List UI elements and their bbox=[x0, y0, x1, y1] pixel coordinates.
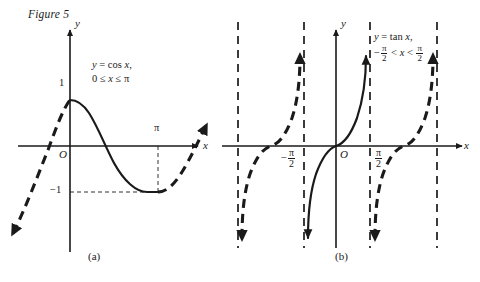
panel-b-tick-plus-denominator: 2 bbox=[375, 158, 382, 169]
panel-a-x-axis-label: x bbox=[203, 139, 208, 151]
panel-b-axes bbox=[222, 30, 462, 248]
panel-a-tick-x-pi: π bbox=[154, 122, 159, 133]
panel-a-domain-lower: 0 ≤ bbox=[92, 73, 108, 84]
panel-b-domain-minus: − bbox=[374, 47, 380, 58]
panel-b-x-axis-label: x bbox=[464, 139, 469, 151]
panel-b-annotation-eq: = tan bbox=[379, 31, 406, 42]
panel-a-origin-label: O bbox=[59, 148, 67, 160]
panel-a-function-annotation: y = cos x, 0 ≤ x ≤ π bbox=[92, 58, 132, 86]
panel-b-domain-lower-fraction: π2 bbox=[381, 44, 388, 63]
panel-a-domain-upper: ≤ π bbox=[113, 73, 129, 84]
panel-a-tick-y-one: 1 bbox=[59, 77, 64, 88]
panel-a-annotation-line-1: y = cos x, bbox=[92, 58, 132, 72]
panel-b-origin-label: O bbox=[340, 148, 348, 160]
panel-b-domain-upper-fraction: π2 bbox=[416, 44, 423, 63]
panel-b-y-axis-label: y bbox=[341, 17, 346, 29]
cosine-dashed-right-branch bbox=[158, 126, 206, 192]
tangent-solid-branch-principal bbox=[308, 56, 366, 238]
panel-a-caption: (a) bbox=[88, 250, 100, 262]
panel-b-caption: (b) bbox=[335, 250, 348, 262]
panel-b-domain-lower-numerator: π bbox=[381, 44, 388, 53]
panel-b-tangent-curves bbox=[242, 56, 433, 238]
panel-b-tick-minus-numerator: π bbox=[288, 148, 295, 158]
panel-b-function-annotation: y = tan x, −π2 < x < π2 bbox=[374, 30, 424, 64]
panel-b-domain-upper-denominator: 2 bbox=[416, 53, 423, 63]
panel-b-annotation-line-2: −π2 < x < π2 bbox=[374, 44, 424, 63]
panel-a-annotation-line-2: 0 ≤ x ≤ π bbox=[92, 72, 132, 86]
figure-container: Figure 5 y x O 1 −1 π y = cos x, 0 ≤ x ≤… bbox=[0, 0, 480, 282]
panel-b-annotation-x: x, bbox=[405, 31, 412, 42]
panel-b-tick-minus-sign: − bbox=[281, 152, 287, 163]
panel-b-tick-minus-fraction: π2 bbox=[288, 148, 295, 169]
panel-a-y-axis-label: y bbox=[75, 17, 80, 29]
panel-b-domain-lower-denominator: 2 bbox=[381, 53, 388, 63]
tangent-dashed-branch-right bbox=[375, 56, 433, 238]
panel-b-domain-lt-1: < bbox=[388, 47, 399, 58]
panel-b-tick-plus-fraction: π2 bbox=[375, 148, 382, 169]
panel-b-tick-plus-numerator: π bbox=[375, 148, 382, 158]
panel-b-domain-upper-numerator: π bbox=[416, 44, 423, 53]
panel-b-tick-pi-over-2: π2 bbox=[374, 148, 383, 169]
panel-a-annotation-eq: = cos bbox=[97, 59, 125, 70]
panel-a-cosine-curve bbox=[13, 100, 206, 233]
panel-a-tick-y-minus-one: −1 bbox=[50, 184, 61, 195]
panel-b-tick-minus-pi-over-2: −π2 bbox=[281, 148, 296, 169]
cosine-dashed-left-branch bbox=[13, 100, 70, 233]
figure-number-label: Figure 5 bbox=[28, 8, 69, 20]
panel-a-guide-lines bbox=[70, 146, 158, 192]
panel-b-tick-minus-denominator: 2 bbox=[288, 158, 295, 169]
panel-b-domain-lt-2: < bbox=[404, 47, 415, 58]
panel-a-annotation-x: x, bbox=[124, 59, 131, 70]
